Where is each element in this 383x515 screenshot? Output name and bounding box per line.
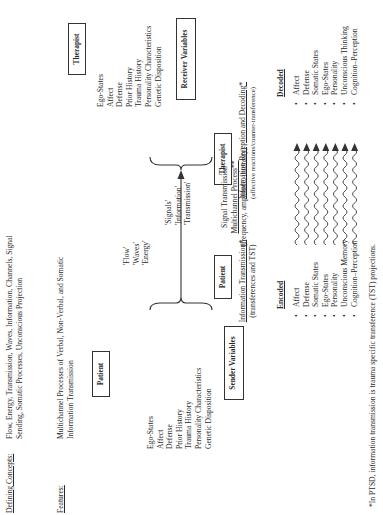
decoded-header: Decoded — [276, 69, 286, 97]
wave-arrow-icon — [294, 143, 301, 245]
wave-arrow-icon — [351, 143, 358, 245]
wave-arrow-icon — [332, 143, 339, 245]
footnote: *In PTSD, information transmission is tr… — [368, 244, 378, 507]
wave-arrow-icon — [342, 143, 349, 245]
wave-arrow-icon — [322, 143, 329, 245]
decoded-list: Affect Defense Somatic States Ego-States… — [292, 26, 359, 105]
wave-arrow-icon — [303, 143, 310, 245]
wave-arrow-icon — [313, 143, 320, 245]
rotated-document-page: Defining Concepts: Flow, Energy, Transmi… — [0, 0, 383, 515]
